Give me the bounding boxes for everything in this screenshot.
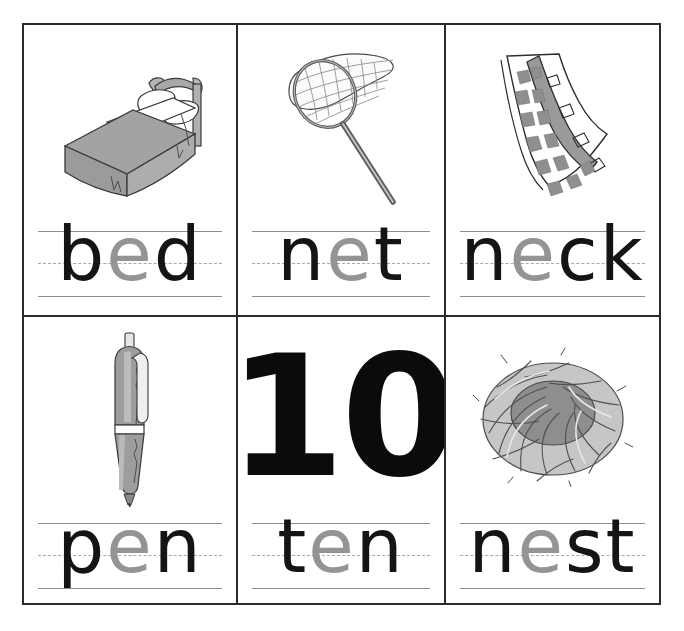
rule-midline	[252, 555, 430, 556]
letter-e: e	[106, 213, 154, 296]
handwriting-lines: nest	[460, 523, 645, 595]
rule-midline	[38, 555, 222, 556]
rule-baseline	[460, 588, 645, 589]
giraffe-neck-icon	[483, 38, 623, 213]
letter-t: t	[374, 213, 405, 296]
rule-top-line	[38, 231, 222, 232]
letter-n: n	[356, 505, 405, 588]
bed-icon	[45, 50, 215, 200]
pen-illustration	[24, 317, 236, 517]
letter-s: s	[565, 505, 606, 588]
letter-e: e	[509, 213, 557, 296]
handwriting-lines: net	[252, 231, 430, 303]
letter-e: e	[106, 505, 154, 588]
rule-midline	[38, 263, 222, 264]
rule-midline	[460, 555, 645, 556]
letter-e: e	[326, 213, 374, 296]
letter-e: e	[308, 505, 356, 588]
card-grid: bed	[24, 25, 659, 603]
net-illustration	[238, 25, 444, 225]
nest-illustration	[446, 317, 659, 517]
letter-b: b	[57, 213, 106, 296]
letter-n: n	[468, 505, 517, 588]
letter-k: k	[600, 213, 645, 296]
word-card-neck[interactable]: neck	[446, 25, 659, 315]
numeral-ten-illustration: 10	[238, 317, 444, 517]
rule-baseline	[252, 588, 430, 589]
word-net: net	[252, 213, 430, 315]
word-card-ten[interactable]: 10 ten	[236, 315, 446, 603]
bird-nest-icon	[473, 347, 633, 487]
word-card-pen[interactable]: pen	[24, 315, 236, 603]
word-neck: neck	[460, 213, 645, 315]
rule-baseline	[460, 296, 645, 297]
rule-midline	[252, 263, 430, 264]
letter-n: n	[154, 505, 203, 588]
letter-n: n	[277, 213, 326, 296]
word-bed: bed	[38, 213, 222, 315]
handwriting-lines: bed	[38, 231, 222, 303]
rule-top-line	[460, 231, 645, 232]
giraffe-neck-illustration	[446, 25, 659, 225]
butterfly-net-icon	[271, 38, 411, 213]
letter-t: t	[605, 505, 636, 588]
rule-baseline	[38, 588, 222, 589]
word-card-net[interactable]: net	[236, 25, 446, 315]
rule-top-line	[252, 231, 430, 232]
letter-e: e	[517, 505, 565, 588]
letter-d: d	[154, 213, 203, 296]
letter-n: n	[461, 213, 510, 296]
rule-top-line	[38, 523, 222, 524]
letter-c: c	[557, 213, 600, 296]
letter-p: p	[57, 505, 106, 588]
ballpoint-pen-icon	[90, 327, 170, 507]
rule-baseline	[252, 296, 430, 297]
word-card-bed[interactable]: bed	[24, 25, 236, 315]
handwriting-lines: neck	[460, 231, 645, 303]
rule-baseline	[38, 296, 222, 297]
worksheet-frame: bed	[22, 23, 661, 605]
handwriting-lines: ten	[252, 523, 430, 595]
handwriting-lines: pen	[38, 523, 222, 595]
numeral-ten: 10	[236, 333, 446, 501]
letter-t: t	[277, 505, 308, 588]
rule-midline	[460, 263, 645, 264]
bed-illustration	[24, 25, 236, 225]
rule-top-line	[252, 523, 430, 524]
word-card-nest[interactable]: nest	[446, 315, 659, 603]
rule-top-line	[460, 523, 645, 524]
